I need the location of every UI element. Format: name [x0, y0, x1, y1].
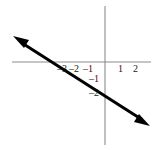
- graph-line: [22, 43, 141, 119]
- line-graph-group: [13, 36, 150, 126]
- coordinate-plane-line-graph: –3 –2 –1 1 2 –1 –2: [0, 0, 162, 150]
- y-tick-label-neg2: –2: [89, 88, 99, 98]
- axes-group: [12, 6, 151, 145]
- x-tick-label-neg3: –3: [57, 64, 67, 74]
- x-tick-label-1: 1: [118, 64, 123, 74]
- plot-canvas: [0, 0, 162, 150]
- x-tick-label-2: 2: [133, 64, 138, 74]
- y-tick-label-neg1: –1: [89, 74, 99, 84]
- x-tick-label-neg2: –2: [69, 64, 79, 74]
